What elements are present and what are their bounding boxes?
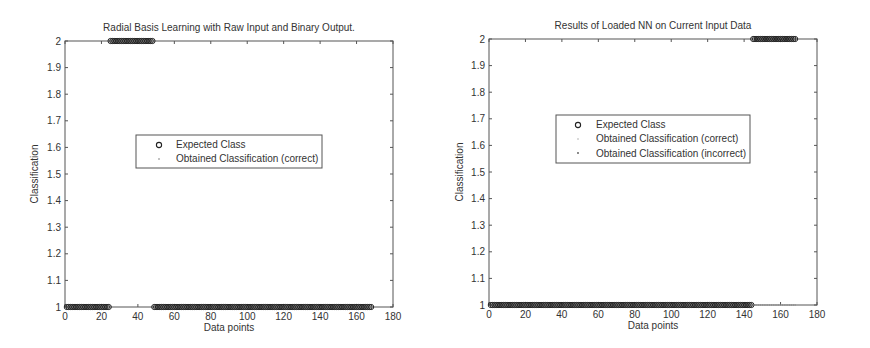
chart-title: Radial Basis Learning with Raw Input and… <box>103 22 355 33</box>
left-chart: Radial Basis Learning with Raw Input and… <box>0 0 435 348</box>
dot-marker-incorrect-icon <box>577 152 579 154</box>
right-chart: Results of Loaded NN on Current Input Da… <box>435 0 870 348</box>
axes-box <box>489 39 817 305</box>
y-tick-label: 1.7 <box>47 115 61 126</box>
y-tick-label: 1.1 <box>47 275 61 286</box>
y-tick-label: 1.6 <box>47 142 61 153</box>
legend-label-incorrect: Obtained Classification (incorrect) <box>596 148 746 159</box>
y-tick-label: 1 <box>55 302 61 313</box>
y-tick-label: 2 <box>479 34 485 45</box>
y-tick-label: 1.8 <box>47 89 61 100</box>
x-tick-label: 20 <box>520 309 532 320</box>
y-tick-label: 1.2 <box>471 246 485 257</box>
x-tick-label: 60 <box>169 311 181 322</box>
x-tick-label: 140 <box>312 311 329 322</box>
x-axis-label: Data points <box>204 322 255 333</box>
x-tick-label: 180 <box>385 311 402 322</box>
x-tick-label: 100 <box>663 309 680 320</box>
x-tick-label: 160 <box>772 309 789 320</box>
x-tick-label: 160 <box>348 311 365 322</box>
legend-label-correct: Obtained Classification (correct) <box>596 133 738 144</box>
axis-ticks: 02040608010012014016018011.11.21.31.41.5… <box>471 34 826 321</box>
x-tick-label: 0 <box>62 311 68 322</box>
y-tick-label: 1.8 <box>471 87 485 98</box>
left-figure: Radial Basis Learning with Raw Input and… <box>0 0 435 348</box>
legend-label-correct: Obtained Classification (correct) <box>176 153 318 164</box>
x-tick-label: 40 <box>556 309 568 320</box>
y-tick-label: 1.3 <box>471 220 485 231</box>
axes-box <box>65 41 393 307</box>
x-tick-label: 20 <box>96 311 108 322</box>
x-tick-label: 60 <box>593 309 605 320</box>
x-tick-label: 40 <box>132 311 144 322</box>
legend: Expected Class Obtained Classification (… <box>556 115 750 163</box>
y-tick-label: 1.7 <box>471 113 485 124</box>
legend-label-expected: Expected Class <box>596 119 665 130</box>
legend-label-expected: Expected Class <box>176 139 245 150</box>
x-tick-label: 120 <box>275 311 292 322</box>
y-tick-label: 1.9 <box>47 62 61 73</box>
y-tick-label: 1.1 <box>471 273 485 284</box>
y-tick-label: 1.5 <box>47 169 61 180</box>
y-axis-label: Classification <box>454 143 465 202</box>
data-points <box>488 36 798 307</box>
y-axis-label: Classification <box>29 145 40 204</box>
x-tick-label: 120 <box>699 309 716 320</box>
y-tick-label: 1.4 <box>47 195 61 206</box>
y-tick-label: 1.4 <box>471 193 485 204</box>
y-tick-label: 1.5 <box>471 167 485 178</box>
right-figure: Results of Loaded NN on Current Input Da… <box>435 0 870 348</box>
y-tick-label: 2 <box>55 36 61 47</box>
x-tick-label: 100 <box>239 311 256 322</box>
y-tick-label: 1.9 <box>471 60 485 71</box>
x-tick-label: 0 <box>486 309 492 320</box>
y-tick-label: 1.2 <box>47 248 61 259</box>
x-tick-label: 180 <box>809 309 826 320</box>
y-tick-label: 1.3 <box>47 222 61 233</box>
x-tick-label: 140 <box>736 309 753 320</box>
dot-marker-icon <box>577 138 579 140</box>
data-points <box>64 38 374 309</box>
x-tick-label: 80 <box>205 311 217 322</box>
dot-marker-icon <box>158 158 160 160</box>
chart-title: Results of Loaded NN on Current Input Da… <box>555 20 752 31</box>
axis-ticks: 02040608010012014016018011.11.21.31.41.5… <box>47 36 402 323</box>
x-axis-label: Data points <box>628 320 679 331</box>
y-tick-label: 1 <box>479 300 485 311</box>
x-tick-label: 80 <box>629 309 641 320</box>
y-tick-label: 1.6 <box>471 140 485 151</box>
legend: Expected Class Obtained Classification (… <box>136 135 322 168</box>
